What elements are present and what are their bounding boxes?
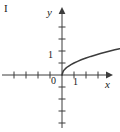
y-tick-label-one: 1 — [48, 50, 53, 60]
y-axis-label: y — [47, 7, 52, 18]
x-axis-label: x — [105, 79, 110, 90]
x-tick-label-one: 1 — [73, 77, 78, 87]
coordinate-plot — [0, 0, 120, 132]
origin-label: 0 — [51, 76, 56, 86]
y-axis-arrowhead — [59, 7, 66, 14]
figure-panel: I — [0, 0, 120, 132]
curve-sqrt-x — [62, 49, 120, 75]
